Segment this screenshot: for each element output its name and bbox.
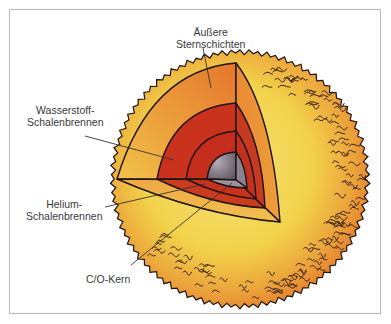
label-hydrogen-shell-line1: Wasserstoff- — [27, 104, 103, 116]
label-helium-shell: Helium- Schalenbrennen — [26, 198, 102, 222]
label-helium-shell-line1: Helium- — [26, 198, 102, 210]
label-core: C/O-Kern — [86, 273, 130, 285]
label-outer-layers: Äußere Sternschichten — [176, 26, 245, 50]
label-outer-layers-line1: Äußere — [176, 26, 245, 38]
label-hydrogen-shell: Wasserstoff- Schalenbrennen — [27, 104, 103, 128]
label-outer-layers-line2: Sternschichten — [176, 38, 245, 50]
label-hydrogen-shell-line2: Schalenbrennen — [27, 116, 103, 128]
label-helium-shell-line2: Schalenbrennen — [26, 210, 102, 222]
label-core-line1: C/O-Kern — [86, 273, 130, 285]
